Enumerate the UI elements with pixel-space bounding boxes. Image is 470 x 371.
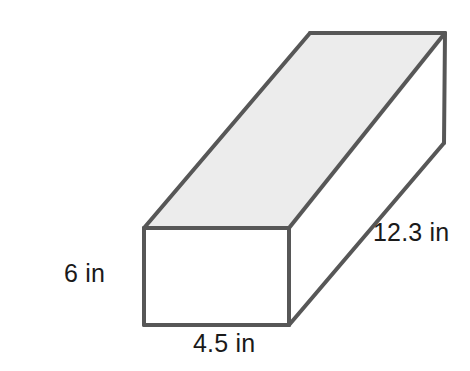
depth-dimension-label: 12.3 in xyxy=(373,220,449,245)
edge-back-right-vertical xyxy=(444,33,445,143)
geometry-figure: 6 in 4.5 in 12.3 in xyxy=(0,0,470,371)
front-face xyxy=(144,228,289,325)
rectangular-prism-drawing xyxy=(0,0,470,371)
height-dimension-label: 6 in xyxy=(64,261,105,286)
width-dimension-label: 4.5 in xyxy=(193,331,255,356)
